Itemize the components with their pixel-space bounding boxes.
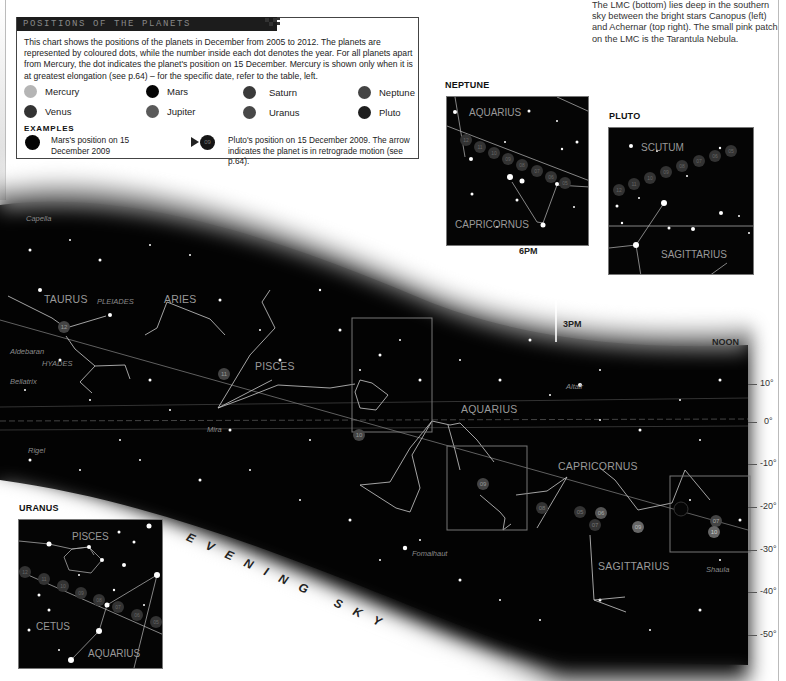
pluto-example-text: Pluto's position on 15 December 2009. Th…	[228, 135, 418, 167]
saturn-dot-icon	[243, 86, 256, 99]
pluto-label-scutum: SCUTUM	[641, 142, 684, 153]
dec-label-0: 0°	[764, 416, 773, 426]
infobox-description: This chart shows the positions of the pl…	[24, 37, 414, 82]
uranus-dot-icon	[243, 106, 256, 119]
pluto-starfield: 12 11 10 09 08 07 06 05 SCUTUM SAGITTARI…	[609, 128, 754, 275]
star-rigel: Rigel	[28, 446, 45, 455]
svg-text:11: 11	[477, 144, 482, 150]
neptune-label-capricornus: CAPRICORNUS	[455, 219, 529, 230]
mars-example-text: Mars's position on 15 December 2009	[51, 135, 161, 156]
svg-text:09: 09	[635, 524, 642, 530]
svg-text:07: 07	[115, 604, 121, 610]
constellation-aquarius: AQUARIUS	[461, 403, 517, 415]
constellation-capricornus: CAPRICORNUS	[558, 460, 638, 472]
svg-text:12: 12	[22, 569, 28, 575]
svg-text:09: 09	[505, 156, 511, 162]
star-bellatrix: Bellatrix	[10, 377, 37, 386]
dec-tick	[748, 384, 757, 385]
svg-text:09: 09	[78, 590, 84, 596]
svg-text:05: 05	[728, 148, 734, 154]
constellation-sagittarius: SAGITTARIUS	[598, 560, 669, 572]
inset-pluto: 12 11 10 09 08 07 06 05 SCUTUM SAGITTARI…	[608, 127, 754, 275]
inset-uranus: 12 11 10 09 08 07 06 05 PISCES CETUS AQU…	[18, 519, 163, 669]
svg-text:08: 08	[539, 505, 546, 511]
svg-text:09: 09	[480, 481, 487, 487]
planet-legend: Mercury Mars Saturn Neptune Venus Jupite…	[24, 85, 414, 123]
neptune-label-aquarius: AQUARIUS	[469, 107, 522, 118]
uranus-starfield: 12 11 10 09 08 07 06 05 PISCES CETUS AQU…	[19, 520, 163, 669]
svg-text:07: 07	[713, 518, 720, 524]
svg-text:06: 06	[598, 510, 605, 516]
mercury-dot-icon	[24, 85, 37, 98]
svg-text:08: 08	[519, 162, 525, 168]
inset-title-pluto: PLUTO	[609, 111, 640, 121]
mars-dot-icon	[146, 85, 159, 98]
uranus-label-pisces: PISCES	[72, 531, 109, 542]
dec-label-minus20: -20°	[760, 501, 777, 511]
inset-title-uranus: URANUS	[19, 503, 59, 513]
dec-label-minus50: -50°	[760, 629, 777, 639]
star-pleiades: PLEIADES	[97, 297, 134, 306]
svg-text:07: 07	[592, 522, 599, 528]
time-label-noon: NOON	[712, 337, 739, 347]
dec-label-minus30: -30°	[760, 544, 777, 554]
page-divider	[778, 0, 779, 681]
dec-tick	[748, 464, 757, 465]
star-altair: Altair	[566, 382, 583, 391]
svg-text:09: 09	[663, 169, 669, 175]
dec-label-10: 10°	[760, 378, 774, 388]
svg-text:07: 07	[696, 158, 702, 164]
inset-neptune: 12 11 10 09 08 07 06 05 AQUARIUS CAPRICO…	[446, 96, 589, 246]
svg-text:06: 06	[712, 153, 718, 159]
svg-text:12: 12	[616, 187, 622, 193]
star-fomalhaut: Fomalhaut	[412, 549, 447, 558]
dec-tick	[748, 507, 757, 508]
star-hyades: HYADES	[42, 359, 72, 368]
mars-example-dot-icon	[25, 135, 40, 150]
svg-text:06: 06	[134, 612, 140, 618]
dec-label-minus40: -40°	[760, 586, 777, 596]
star-capella: Capella	[26, 214, 51, 223]
checker-decoration-icon	[265, 17, 281, 29]
svg-text:07: 07	[534, 168, 540, 174]
svg-text:05: 05	[577, 509, 584, 515]
svg-text:11: 11	[41, 576, 46, 582]
marker-2012-taurus: 12	[61, 324, 68, 330]
star-shaula: Shaula	[706, 565, 729, 574]
svg-text:10: 10	[491, 150, 497, 156]
inset-title-neptune: NEPTUNE	[445, 80, 489, 90]
neptune-starfield: 12 11 10 09 08 07 06 05 AQUARIUS CAPRICO…	[447, 97, 589, 246]
venus-dot-icon	[24, 105, 37, 118]
svg-text:11: 11	[221, 371, 228, 377]
time-label-6pm: 6PM	[519, 246, 538, 256]
svg-text:10: 10	[711, 529, 718, 535]
svg-text:11: 11	[631, 181, 636, 187]
svg-text:10: 10	[647, 175, 653, 181]
svg-text:06: 06	[548, 174, 554, 180]
dec-tick	[748, 635, 757, 636]
dec-tick	[748, 592, 757, 593]
infobox-title: POSITIONS OF THE PLANETS	[17, 17, 277, 31]
dec-label-minus10: -10°	[760, 458, 777, 468]
retrograde-arrow-icon	[191, 137, 199, 147]
svg-text:10: 10	[60, 583, 66, 589]
uranus-label-aquarius: AQUARIUS	[88, 648, 141, 659]
svg-text:08: 08	[96, 597, 102, 603]
planet-positions-infobox: POSITIONS OF THE PLANETS This chart show…	[16, 17, 419, 159]
uranus-label-cetus: CETUS	[36, 621, 70, 632]
svg-text:05: 05	[562, 180, 568, 186]
star-mira: Mira	[207, 425, 222, 434]
time-rule-3pm	[555, 300, 557, 342]
neptune-dot-icon	[358, 86, 371, 99]
svg-text:05: 05	[153, 619, 159, 625]
star-aldebaran: Aldebaran	[10, 347, 44, 356]
pluto-label-sagittarius: SAGITTARIUS	[661, 249, 727, 260]
constellation-taurus: TAURUS	[44, 293, 88, 305]
time-label-3pm: 3PM	[563, 319, 582, 329]
svg-text:10: 10	[356, 432, 363, 438]
lmc-caption: The LMC (bottom) lies deep in the southe…	[592, 0, 782, 45]
svg-text:12: 12	[463, 137, 469, 143]
constellation-pisces: PISCES	[255, 360, 295, 372]
examples-heading: EXAMPLES	[24, 124, 74, 133]
pluto-example-dot-icon: 09	[200, 135, 215, 150]
